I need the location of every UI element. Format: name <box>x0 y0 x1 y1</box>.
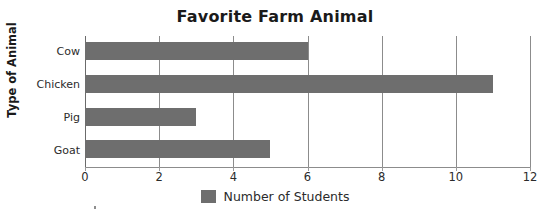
bar-goat <box>85 140 270 158</box>
bar-chicken <box>85 75 493 93</box>
y-tick-label-goat: Goat <box>2 145 80 157</box>
x-tick-label-8: 8 <box>378 170 385 184</box>
y-tick-label-pig: Pig <box>2 112 80 124</box>
bar-row <box>85 36 530 69</box>
y-axis-tick-labels: CowChickenPigGoat <box>0 36 80 167</box>
bar-row <box>85 134 530 167</box>
x-axis-tick-labels: 024681012 <box>85 170 530 186</box>
bar-pig <box>85 108 196 126</box>
bar-row <box>85 69 530 102</box>
x-tick-label-2: 2 <box>155 170 162 184</box>
x-tick-label-4: 4 <box>230 170 237 184</box>
y-tick-label-cow: Cow <box>2 46 80 58</box>
legend-label: Number of Students <box>224 189 350 204</box>
plot-area <box>85 36 530 167</box>
speck-artifact <box>94 206 96 209</box>
chart-title: Favorite Farm Animal <box>0 7 550 26</box>
x-tick-label-10: 10 <box>449 170 464 184</box>
x-tick-label-0: 0 <box>81 170 88 184</box>
chart-legend: Number of Students <box>0 189 550 204</box>
bar-row <box>85 102 530 135</box>
bar-cow <box>85 42 308 60</box>
bar-chart-figure: Favorite Farm Animal Type of Animal CowC… <box>0 0 550 218</box>
y-tick-label-chicken: Chicken <box>2 79 80 91</box>
legend-color-swatch <box>201 190 216 203</box>
x-tick-label-6: 6 <box>304 170 311 184</box>
gridline-12 <box>530 36 531 167</box>
x-tick-label-12: 12 <box>523 170 538 184</box>
